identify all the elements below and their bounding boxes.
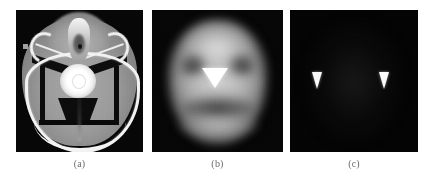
subtraction-image: [290, 10, 418, 152]
ct-side-marker: [23, 44, 28, 49]
ct-hyperdense-inner-ring: [72, 74, 86, 89]
panel-subtraction-scan[interactable]: [290, 10, 418, 152]
ct-image: [16, 10, 143, 152]
caption-panel-b: (b): [152, 157, 283, 171]
functional-image: [152, 10, 283, 152]
caption-panel-a: (a): [16, 157, 143, 171]
panel-functional-scan[interactable]: [152, 10, 283, 152]
triangle-down-marker-icon: [202, 68, 228, 88]
ct-nasal-dark-focus: [78, 44, 82, 49]
triangle-down-marker-right-icon: [379, 72, 389, 89]
triangle-down-marker-left-icon: [312, 72, 322, 89]
caption-panel-c: (c): [290, 157, 418, 171]
functional-occipital-uptake: [178, 114, 258, 138]
panel-ct-scan[interactable]: [16, 10, 143, 152]
figure-container: (a) (b) (c): [0, 0, 436, 180]
